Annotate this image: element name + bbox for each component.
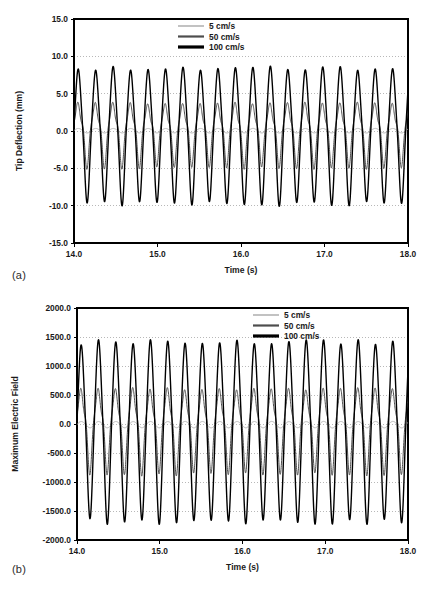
x-tick-label: 18.0 (400, 546, 417, 556)
x-tick-label: 16.0 (234, 546, 251, 556)
series-group (77, 340, 408, 525)
y-tick-label: -1000.0 (43, 477, 72, 487)
x-axis-title: Time (s) (225, 265, 258, 275)
legend-label: 50 cm/s (284, 321, 315, 331)
x-axis-title: Time (s) (226, 562, 259, 572)
y-tick-label: 500.0 (50, 390, 71, 400)
x-tick-label: 15.0 (149, 249, 166, 259)
panel-tag-b: (b) (12, 563, 26, 575)
y-tick-label: -500.0 (47, 448, 71, 458)
y-tick-label: 0.0 (56, 126, 68, 136)
legend-label: 5 cm/s (209, 21, 235, 31)
y-tick-label: -10.0 (49, 201, 68, 211)
figure-root: 15.010.05.00.0-5.0-10.0-15.014.015.016.0… (0, 0, 437, 598)
y-tick-label: -5.0 (54, 163, 69, 173)
legend: 5 cm/s50 cm/s100 cm/s (253, 310, 320, 341)
x-tick-label: 17.0 (316, 249, 333, 259)
y-tick-label: -2000.0 (43, 535, 72, 545)
legend-label: 5 cm/s (284, 310, 310, 320)
y-tick-label: -1500.0 (43, 506, 72, 516)
y-tick-label: 0.0 (59, 419, 71, 429)
x-tick-label: 15.0 (152, 546, 169, 556)
x-tick-label: 14.0 (69, 546, 86, 556)
chart-panel-a: 15.010.05.00.0-5.0-10.0-15.014.015.016.0… (0, 0, 437, 300)
legend-label: 100 cm/s (209, 42, 245, 52)
y-axis-title: Maximum Electric Field (10, 376, 20, 472)
x-tick-label: 14.0 (66, 249, 83, 259)
legend-label: 50 cm/s (209, 32, 240, 42)
plot-area-b: 2000.01500.01000.0500.00.0-500.0-1000.0-… (0, 298, 437, 598)
plot-area-a: 15.010.05.00.0-5.0-10.0-15.014.015.016.0… (0, 0, 437, 300)
chart-panel-b: 2000.01500.01000.0500.00.0-500.0-1000.0-… (0, 298, 437, 598)
y-tick-label: 5.0 (56, 89, 68, 99)
y-tick-label: 15.0 (52, 14, 69, 24)
y-tick-label: 1500.0 (45, 332, 71, 342)
data-series-line (74, 66, 408, 206)
y-tick-label: 2000.0 (45, 303, 71, 313)
x-tick-label: 18.0 (400, 249, 417, 259)
y-tick-label: -15.0 (49, 238, 68, 248)
x-tick-label: 16.0 (233, 249, 250, 259)
panel-tag-a: (a) (12, 269, 26, 281)
legend-label: 100 cm/s (284, 331, 320, 341)
y-tick-label: 1000.0 (45, 361, 71, 371)
x-tick-label: 17.0 (317, 546, 334, 556)
y-tick-label: 10.0 (52, 51, 69, 61)
legend: 5 cm/s50 cm/s100 cm/s (178, 21, 245, 52)
series-group (74, 66, 408, 206)
y-axis-title: Tip Deflection (mm) (14, 91, 24, 171)
